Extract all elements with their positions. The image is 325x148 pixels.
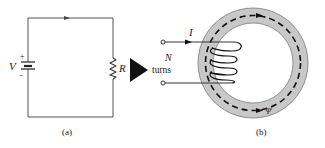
turns-text-label: turns: [152, 65, 171, 75]
flux-label: Ψ: [265, 106, 272, 116]
battery-minus-sign: −: [19, 71, 24, 80]
current-arrow-icon: [185, 40, 192, 45]
resistor-label: R: [118, 62, 126, 74]
battery-plus-sign: +: [20, 52, 25, 61]
voltage-label: V: [9, 60, 17, 72]
caption-a: (a): [62, 127, 72, 137]
turns-count-label: N: [164, 52, 173, 63]
circuit-wires: [28, 18, 113, 117]
toroid-core: [198, 8, 308, 118]
resistor-icon: [110, 58, 116, 79]
figure: + − V R (a) Ψ I: [0, 0, 325, 148]
panel-a-circuit: + − V R (a): [9, 16, 126, 137]
transition-arrow-icon: [130, 58, 148, 82]
current-label: I: [188, 26, 194, 38]
battery-icon: [21, 62, 35, 69]
panel-b-toroid: Ψ I N turns (b): [152, 8, 308, 137]
caption-b: (b): [256, 127, 267, 137]
current-direction-arrow-icon: [64, 16, 70, 20]
